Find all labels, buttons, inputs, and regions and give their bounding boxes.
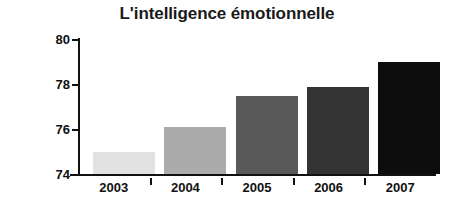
x-axis-labels: 20032004200520062007 bbox=[70, 178, 436, 200]
plot-area: 74767880 bbox=[78, 39, 435, 174]
y-tick-label: 80 bbox=[56, 32, 70, 47]
x-label-2003: 2003 bbox=[78, 180, 150, 195]
y-tick-label: 78 bbox=[56, 77, 70, 92]
bar-2006 bbox=[307, 39, 369, 174]
x-label-2004: 2004 bbox=[150, 180, 222, 195]
x-label-2007: 2007 bbox=[364, 180, 436, 195]
bars-layer bbox=[78, 39, 435, 174]
y-tick-label: 76 bbox=[56, 122, 70, 137]
x-axis-line bbox=[70, 174, 436, 176]
bar-2004 bbox=[164, 39, 226, 174]
x-tick-mark bbox=[364, 178, 366, 185]
y-tick-mark bbox=[72, 174, 78, 176]
x-tick-mark bbox=[293, 178, 295, 185]
bar-rect bbox=[307, 87, 369, 174]
chart-title: L'intelligence émotionnelle bbox=[0, 4, 454, 24]
bar-2007 bbox=[378, 39, 440, 174]
bar-rect bbox=[378, 62, 440, 175]
x-label-2005: 2005 bbox=[221, 180, 293, 195]
x-tick-mark bbox=[150, 178, 152, 185]
y-tick-label: 74 bbox=[56, 167, 70, 182]
x-tick-mark bbox=[221, 178, 223, 185]
bar-rect bbox=[236, 96, 298, 174]
bar-2003 bbox=[93, 39, 155, 174]
bar-chart-figure: L'intelligence émotionnelle QE moyen 747… bbox=[0, 0, 454, 210]
bar-rect bbox=[93, 152, 155, 175]
bar-rect bbox=[164, 127, 226, 174]
x-label-2006: 2006 bbox=[293, 180, 365, 195]
bar-2005 bbox=[236, 39, 298, 174]
